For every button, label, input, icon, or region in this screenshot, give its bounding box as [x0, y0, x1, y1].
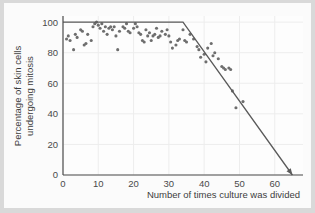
y-tick-label: 0: [53, 169, 58, 180]
data-point: [113, 25, 116, 28]
data-point: [67, 34, 70, 37]
data-point: [65, 37, 68, 40]
y-axis-title-line1: Percentage of skin cells: [12, 46, 23, 147]
x-tick-label: 40: [199, 178, 210, 189]
data-point: [74, 33, 77, 36]
data-point: [102, 30, 105, 33]
data-point: [136, 25, 139, 28]
data-point: [213, 51, 216, 54]
x-tick-label: 10: [93, 178, 104, 189]
data-point: [185, 40, 188, 43]
data-point: [114, 34, 117, 37]
data-point: [76, 36, 79, 39]
data-point: [174, 44, 177, 47]
data-point: [84, 42, 87, 45]
data-point: [90, 39, 93, 42]
data-point: [116, 48, 119, 51]
data-point: [181, 28, 184, 31]
data-point: [211, 54, 214, 57]
data-point: [69, 39, 72, 42]
data-point: [166, 28, 169, 31]
y-tick-label: 80: [47, 47, 58, 58]
data-point: [150, 39, 153, 42]
x-tick-label: 0: [60, 178, 65, 189]
y-tick-label: 20: [47, 139, 58, 150]
y-tick-label: 60: [47, 78, 58, 89]
data-point: [206, 47, 209, 50]
x-tick-labels: 0102030405060: [60, 178, 280, 189]
x-tick-label: 50: [234, 178, 245, 189]
figure-panel: 0102030405060 020406080100 Number of tim…: [4, 3, 311, 208]
x-tick-label: 30: [164, 178, 175, 189]
data-point: [197, 48, 200, 51]
data-point: [86, 33, 89, 36]
data-point: [169, 40, 172, 43]
data-point: [178, 37, 181, 40]
data-point: [164, 33, 167, 36]
data-point: [224, 68, 227, 71]
x-tick-label: 20: [128, 178, 139, 189]
data-point: [99, 27, 102, 30]
data-point: [199, 56, 202, 59]
data-point: [81, 30, 84, 33]
mitosis-scatter-chart: 0102030405060 020406080100 Number of tim…: [4, 3, 311, 208]
data-point: [132, 27, 135, 30]
data-point: [144, 28, 147, 31]
data-point: [153, 33, 156, 36]
data-point: [148, 31, 151, 34]
data-point: [91, 25, 94, 28]
data-point: [217, 57, 220, 60]
plot-area-background: [63, 16, 303, 176]
y-tick-label: 100: [42, 17, 58, 28]
data-point: [111, 28, 114, 31]
data-point: [229, 68, 232, 71]
data-point: [210, 42, 213, 45]
y-axis-title-line2: undergoing mitosis: [24, 56, 35, 136]
data-point: [106, 33, 109, 36]
data-point: [204, 60, 207, 63]
data-point: [146, 34, 149, 37]
data-point: [109, 25, 112, 28]
data-point: [167, 34, 170, 37]
data-point: [129, 31, 132, 34]
data-point: [143, 40, 146, 43]
y-tick-labels: 020406080100: [42, 17, 58, 181]
data-point: [104, 25, 107, 28]
data-point: [139, 33, 142, 36]
data-point: [241, 100, 244, 103]
data-point: [97, 24, 100, 27]
data-point: [155, 27, 158, 30]
data-point: [171, 47, 174, 50]
data-point: [159, 34, 162, 37]
x-tick-label: 60: [269, 178, 280, 189]
y-tick-label: 40: [47, 108, 58, 119]
data-point: [196, 45, 199, 48]
data-point: [72, 48, 75, 51]
x-axis-title: Number of times culture was divided: [147, 189, 300, 200]
data-point: [234, 106, 237, 109]
data-point: [118, 30, 121, 33]
data-point: [160, 30, 163, 33]
data-point: [123, 27, 126, 30]
